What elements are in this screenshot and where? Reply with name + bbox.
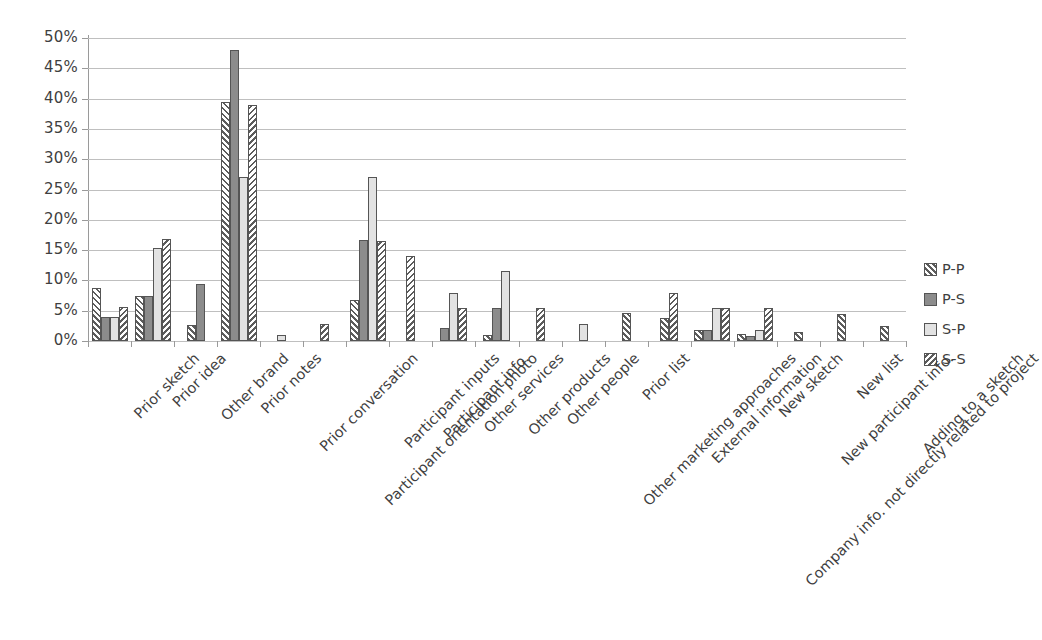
- y-axis-label: 45%: [26, 60, 78, 75]
- x-axis-tick: [605, 341, 606, 347]
- bar: [579, 324, 588, 341]
- bar-group: [174, 38, 217, 341]
- x-axis-tick: [648, 341, 649, 347]
- bar: [492, 308, 501, 341]
- gridline: [88, 341, 906, 342]
- bar: [368, 177, 377, 341]
- x-axis-tick: [346, 341, 347, 347]
- legend-label: P-P: [942, 262, 964, 277]
- bar: [712, 308, 721, 341]
- bar-group: [648, 38, 691, 341]
- legend-item-p-s[interactable]: P-S: [924, 288, 1014, 311]
- x-axis-tick: [174, 341, 175, 347]
- y-axis-label: 0%: [26, 333, 78, 348]
- x-axis-tick: [519, 341, 520, 347]
- bar: [359, 240, 368, 341]
- bar: [837, 314, 846, 341]
- bar: [239, 177, 248, 341]
- bar: [221, 102, 230, 341]
- x-axis-tick: [734, 341, 735, 347]
- bar-group: [260, 38, 303, 341]
- x-axis-label: External information: [709, 350, 825, 466]
- bar: [660, 318, 669, 341]
- bar-group: [605, 38, 648, 341]
- bar-group: [475, 38, 518, 341]
- legend-swatch-icon: [924, 293, 937, 306]
- y-axis-tick: [82, 159, 88, 160]
- bar: [350, 300, 359, 341]
- bar: [377, 241, 386, 341]
- x-axis-tick: [432, 341, 433, 347]
- y-axis-label: 20%: [26, 212, 78, 227]
- bar: [110, 317, 119, 341]
- x-axis-tick: [863, 341, 864, 347]
- x-axis-tick: [906, 341, 907, 347]
- plot-area: [88, 38, 906, 341]
- bar: [669, 293, 678, 341]
- x-axis-tick: [303, 341, 304, 347]
- y-axis-labels: 50%45%40%35%30%25%20%15%10%5%0%: [18, 0, 78, 400]
- bar-group: [389, 38, 432, 341]
- bar: [536, 308, 545, 341]
- bar: [92, 288, 101, 341]
- legend-swatch-icon: [924, 263, 937, 276]
- bar: [501, 271, 510, 341]
- y-axis-label: 15%: [26, 242, 78, 257]
- x-axis-tick: [475, 341, 476, 347]
- legend-item-s-p[interactable]: S-P: [924, 318, 1014, 341]
- x-axis-tick: [260, 341, 261, 347]
- y-axis-label: 10%: [26, 272, 78, 287]
- bar-group: [820, 38, 863, 341]
- legend-label: P-S: [942, 292, 965, 307]
- bar: [737, 334, 746, 341]
- bar: [694, 330, 703, 341]
- x-axis-label: Prior list: [640, 350, 693, 403]
- bar: [248, 105, 257, 341]
- y-axis-tick: [82, 311, 88, 312]
- bar-group: [691, 38, 734, 341]
- bar: [880, 326, 889, 341]
- bar: [153, 248, 162, 341]
- x-axis-tick: [562, 341, 563, 347]
- bar: [703, 330, 712, 341]
- bar-group: [562, 38, 605, 341]
- bar: [162, 239, 171, 341]
- x-axis-tick: [88, 341, 89, 347]
- bar-group: [432, 38, 475, 341]
- bar-group: [734, 38, 777, 341]
- x-axis-tick: [389, 341, 390, 347]
- bar: [277, 335, 286, 341]
- x-axis-tick: [777, 341, 778, 347]
- y-axis-label: 30%: [26, 151, 78, 166]
- y-axis-label: 5%: [26, 303, 78, 318]
- bar-group: [346, 38, 389, 341]
- bar: [755, 330, 764, 341]
- bar: [483, 335, 492, 341]
- legend-item-p-p[interactable]: P-P: [924, 258, 1014, 281]
- bar-group: [519, 38, 562, 341]
- bar: [746, 336, 755, 341]
- bar: [135, 296, 144, 341]
- bar: [440, 328, 449, 341]
- y-axis-label: 35%: [26, 121, 78, 136]
- x-axis-tick: [217, 341, 218, 347]
- bar: [101, 317, 110, 341]
- y-axis-tick: [82, 38, 88, 39]
- caption-strip: [60, 628, 580, 638]
- bar: [144, 296, 153, 341]
- x-axis-tick: [691, 341, 692, 347]
- y-axis-tick: [82, 280, 88, 281]
- bar: [406, 256, 415, 341]
- bar-group: [777, 38, 820, 341]
- bar: [458, 308, 467, 341]
- legend-label: S-P: [942, 322, 965, 337]
- bar: [764, 308, 773, 341]
- y-axis-tick: [82, 220, 88, 221]
- y-axis-label: 50%: [26, 30, 78, 45]
- bar: [449, 293, 458, 341]
- bar-group: [217, 38, 260, 341]
- bar: [622, 313, 631, 341]
- bar-group: [303, 38, 346, 341]
- x-axis-tick: [820, 341, 821, 347]
